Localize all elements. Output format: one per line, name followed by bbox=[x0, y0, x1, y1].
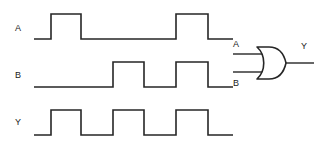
waveform-row-a: A bbox=[15, 14, 233, 39]
or-gate-timing-svg: A B Y A B Y bbox=[0, 0, 323, 145]
waveform-row-y: Y bbox=[15, 110, 233, 135]
waveform-label-y: Y bbox=[15, 117, 21, 127]
gate-input-label-a: A bbox=[233, 39, 239, 49]
timing-diagram-figure: A B Y A B Y bbox=[0, 0, 323, 145]
or-gate-symbol: A B Y bbox=[233, 39, 314, 88]
waveform-trace-a bbox=[34, 14, 233, 39]
waveform-label-a: A bbox=[15, 23, 21, 33]
gate-input-label-b: B bbox=[233, 78, 239, 88]
waveform-label-b: B bbox=[15, 70, 21, 80]
waveform-row-b: B bbox=[15, 62, 233, 87]
gate-output-label-y: Y bbox=[301, 41, 307, 51]
or-gate-body bbox=[257, 47, 286, 79]
waveform-trace-y bbox=[34, 110, 233, 135]
waveform-trace-b bbox=[34, 62, 233, 87]
